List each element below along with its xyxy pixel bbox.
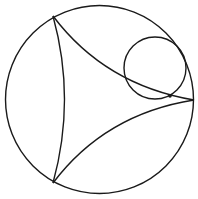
boundary-circle	[6, 6, 194, 194]
geodesic-a-c	[53, 16, 194, 100]
geodesic-a-b	[53, 16, 65, 183]
diagram-canvas	[0, 0, 198, 199]
geodesic-b-c	[53, 100, 194, 183]
hyperbolic-diagram	[0, 0, 198, 199]
marked-point	[168, 94, 172, 98]
